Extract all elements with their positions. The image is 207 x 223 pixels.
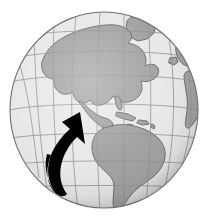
limb-shading [10,12,198,208]
globe-illustration-canvas: Globe showing the Americas with curved a… [0,0,207,223]
globe-figure [0,0,207,223]
